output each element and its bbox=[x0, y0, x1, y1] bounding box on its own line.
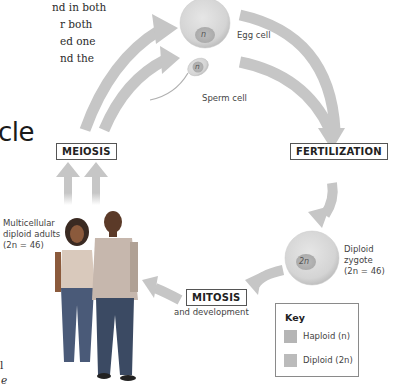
adults-label-line: diploid adults bbox=[3, 229, 60, 240]
diploid-label: Diploid (2n) bbox=[303, 355, 353, 365]
zygote-label-line: Diploid bbox=[344, 244, 385, 255]
zygote-arrow bbox=[308, 183, 333, 228]
fertilization-stage-label: FERTILIZATION bbox=[290, 143, 388, 160]
meiosis-arrow-inner bbox=[104, 46, 180, 130]
zygote-label: Diploid zygote (2n = 46) bbox=[344, 244, 385, 277]
mitosis-stage-label: MITOSIS bbox=[186, 289, 247, 306]
haploid-label: Haploid (n) bbox=[303, 331, 350, 341]
egg-cell bbox=[180, 0, 230, 48]
adults-label-line: (2n = 46) bbox=[3, 240, 60, 251]
zygote-nucleus-label: 2n bbox=[299, 256, 309, 267]
adults-label: Multicellular diploid adults (2n = 46) bbox=[3, 218, 60, 251]
sperm-nucleus-label: n bbox=[195, 61, 200, 72]
meiosis-stage-label: MEIOSIS bbox=[56, 143, 117, 160]
development-arrow bbox=[142, 276, 180, 300]
diploid-swatch bbox=[284, 354, 297, 367]
egg-cell-label: Egg cell bbox=[237, 30, 271, 41]
legend-key: Key Haploid (n) Diploid (2n) bbox=[275, 303, 359, 377]
adults-label-line: Multicellular bbox=[3, 218, 60, 229]
zygote-label-line: zygote bbox=[344, 255, 385, 266]
sperm-cell-label: Sperm cell bbox=[202, 93, 247, 104]
margin-fragment: e bbox=[1, 372, 7, 388]
meiosis-up-arrows bbox=[56, 162, 108, 205]
mitosis-arrow bbox=[245, 270, 283, 295]
haploid-swatch bbox=[284, 330, 297, 343]
zygote-label-line: (2n = 46) bbox=[344, 266, 385, 277]
egg-nucleus-label: n bbox=[201, 29, 206, 40]
adults-figure bbox=[55, 211, 138, 381]
mitosis-subtitle: and development bbox=[174, 307, 249, 318]
zygote-cell bbox=[285, 231, 339, 285]
legend-title: Key bbox=[285, 312, 305, 323]
